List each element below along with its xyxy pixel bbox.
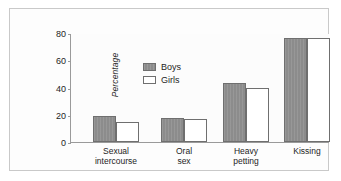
bar-chart-figure: Percentage 80 60 40 20 0 Boys Girls — [0, 0, 341, 181]
y-tick-40: 40 — [44, 84, 66, 94]
y-tickmark-0 — [68, 143, 71, 144]
y-tickmark-20 — [68, 116, 71, 117]
y-tickmark-60 — [68, 61, 71, 62]
bar-boys-sexual-intercourse — [93, 116, 116, 142]
legend-swatch-girls-icon — [143, 76, 156, 84]
bar-boys-oral-sex — [161, 118, 184, 143]
y-tick-20: 20 — [44, 111, 66, 121]
chart-frame: Percentage 80 60 40 20 0 Boys Girls — [9, 8, 329, 171]
bar-girls-kissing — [307, 38, 330, 142]
bar-girls-sexual-intercourse — [116, 122, 139, 142]
bar-group-heavy-petting: Heavy petting — [223, 34, 269, 142]
bar-boys-kissing — [284, 38, 307, 142]
bar-boys-heavy-petting — [223, 83, 246, 142]
category-label-line1: Kissing — [259, 146, 341, 156]
y-tick-80: 80 — [44, 29, 66, 39]
bar-group-sexual-intercourse: Sexual intercourse — [93, 34, 139, 142]
y-tickmark-40 — [68, 89, 71, 90]
y-tickmark-80 — [68, 34, 71, 35]
category-label-line2: petting — [198, 156, 294, 166]
category-label-kissing: Kissing — [259, 146, 341, 156]
plot-area: Percentage 80 60 40 20 0 Boys Girls — [70, 34, 329, 143]
bar-group-kissing: Kissing — [284, 34, 330, 142]
bar-girls-oral-sex — [184, 119, 207, 142]
y-tick-60: 60 — [44, 56, 66, 66]
bar-group-oral-sex: Oral sex — [161, 34, 207, 142]
bar-girls-heavy-petting — [246, 88, 269, 143]
y-tick-0: 0 — [44, 138, 66, 148]
legend-swatch-boys-icon — [143, 63, 156, 71]
